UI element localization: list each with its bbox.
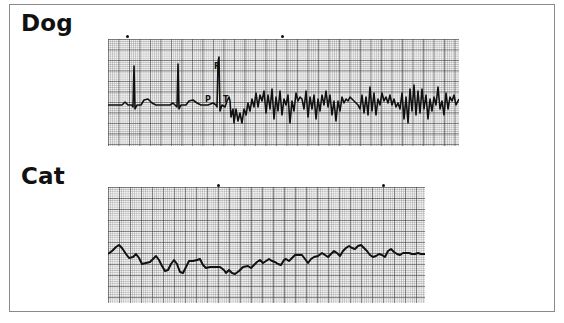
t-wave-label: T: [223, 95, 229, 104]
dog-panel-label: Dog: [21, 10, 73, 36]
r-wave-label: R: [214, 62, 220, 71]
p-wave-label: P: [205, 95, 211, 104]
timing-marker: [281, 35, 284, 38]
cat-ecg-trace: [108, 187, 425, 303]
dog-ecg-trace: P R T: [108, 39, 459, 146]
dog-ecg-strip: P R T: [108, 39, 459, 146]
cat-ecg-strip: [108, 187, 425, 303]
cat-panel-label: Cat: [21, 163, 65, 189]
timing-marker: [126, 35, 129, 38]
